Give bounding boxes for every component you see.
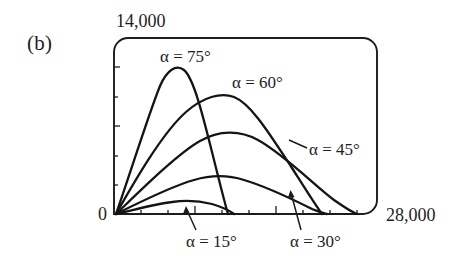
x-axis-max-label: 28,000 (386, 206, 436, 224)
trajectory-alpha-75 (116, 68, 228, 214)
curve-label-alpha-75: α = 75° (160, 48, 211, 65)
leader-alpha-15 (183, 206, 196, 230)
y-axis-max-label: 14,000 (116, 12, 166, 30)
curve-label-alpha-30: α = 30° (290, 233, 341, 250)
trajectory-alpha-15 (116, 201, 234, 214)
panel-label: (b) (27, 33, 52, 54)
curve-label-alpha-15: α = 15° (186, 233, 237, 250)
curve-label-alpha-60: α = 60° (232, 74, 283, 91)
curve-label-alpha-45: α = 45° (309, 141, 360, 158)
plot-frame (114, 38, 377, 214)
figure-container: (b) 14,000 28,000 0 α = 75° α = 60° α = … (0, 0, 462, 259)
leader-alpha-45 (289, 140, 307, 148)
leader-alpha-30 (288, 190, 301, 230)
origin-label: 0 (98, 205, 107, 223)
